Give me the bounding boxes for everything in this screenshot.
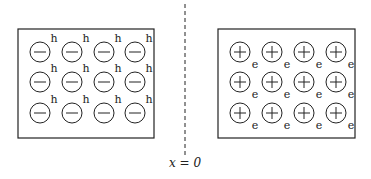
electron-label: e [316,119,323,132]
left-region-box [18,29,154,138]
hole-label: h [114,62,121,75]
positive-ion-icon [262,103,282,123]
positive-ion-icon [294,103,314,123]
positive-ion-icon [230,72,250,92]
positive-ion-icon [326,42,346,62]
negative-ion-icon [62,72,82,92]
boundary-label: x = 0 [169,156,201,170]
hole-label: h [50,93,57,106]
left-region-p-type: hhhhhhhhhhhh [18,29,154,138]
electron-label: e [316,58,323,71]
hole-label: h [50,62,57,75]
negative-ion-icon [94,103,114,123]
hole-label: h [82,32,89,45]
negative-ion-icon [30,42,50,62]
hole-label: h [145,93,152,106]
negative-ion-icon [62,42,82,62]
pn-junction-diagram: hhhhhhhhhhhh eeeeeeeeeeee x = 0 [0,0,371,179]
hole-label: h [145,62,152,75]
positive-ion-icon [294,72,314,92]
positive-ion-icon [294,42,314,62]
hole-label: h [82,93,89,106]
hole-label: h [145,32,152,45]
hole-label: h [50,32,57,45]
electron-label: e [348,58,355,71]
positive-ion-icon [262,72,282,92]
hole-label: h [114,93,121,106]
negative-ion-icon [94,72,114,92]
positive-ion-icon [230,42,250,62]
electron-label: e [252,119,259,132]
positive-ion-icon [326,72,346,92]
positive-ion-icon [326,103,346,123]
electron-label: e [284,119,291,132]
positive-ion-icon [262,42,282,62]
negative-ion-icon [125,103,145,123]
hole-label: h [114,32,121,45]
negative-ion-icon [125,72,145,92]
hole-label: h [82,62,89,75]
junction-boundary: x = 0 [169,4,201,170]
negative-ion-icon [30,72,50,92]
electron-label: e [316,88,323,101]
right-region-n-type: eeeeeeeeeeee [218,29,355,138]
electron-label: e [252,58,259,71]
negative-ion-icon [62,103,82,123]
positive-ion-icon [230,103,250,123]
negative-ion-icon [94,42,114,62]
electron-label: e [348,88,355,101]
electron-label: e [284,58,291,71]
electron-label: e [252,88,259,101]
negative-ion-icon [30,103,50,123]
negative-ion-icon [125,42,145,62]
electron-label: e [348,119,355,132]
electron-label: e [284,88,291,101]
